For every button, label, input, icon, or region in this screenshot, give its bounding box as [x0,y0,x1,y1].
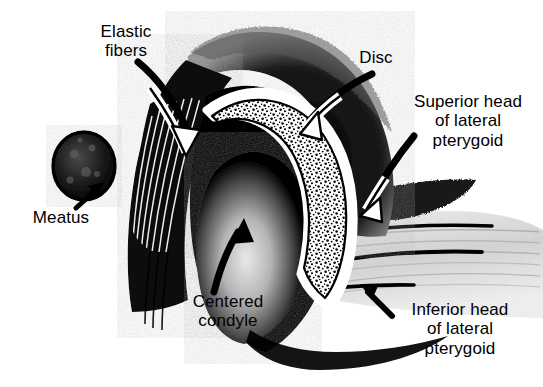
label-inferior-head-of-lateral-pterygoid: Inferior head of lateral pterygoid [390,300,530,358]
label-meatus: Meatus [18,208,104,227]
label-elastic-fibers: Elastic fibers [78,22,174,61]
figure-canvas: Elastic fibers Disc Superior head of lat… [0,0,543,387]
label-superior-head-of-lateral-pterygoid: Superior head of lateral pterygoid [396,92,540,150]
meatus-oval [53,132,115,200]
label-centered-condyle: Centered condyle [176,292,280,331]
label-disc: Disc [345,48,407,67]
